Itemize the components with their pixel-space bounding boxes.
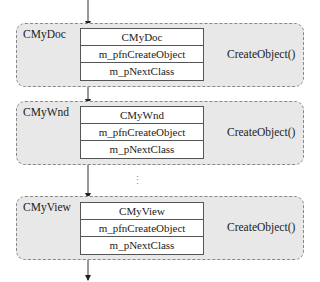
ellipsis: ⋮ (132, 174, 143, 187)
class-box-cmyview: CMyView m_pfnCreateObject m_pNextClass (80, 202, 204, 255)
field-next-class: m_pNextClass (81, 237, 203, 254)
field-create-object: m_pfnCreateObject (81, 46, 203, 63)
field-next-class: m_pNextClass (81, 63, 203, 80)
create-object-target: CreateObject() (227, 221, 295, 233)
group-label: CMyWnd (23, 106, 69, 118)
create-object-target: CreateObject() (227, 126, 295, 138)
class-box-cmywnd: CMyWnd m_pfnCreateObject m_pNextClass (80, 106, 204, 159)
class-name: CMyWnd (81, 107, 203, 124)
group-label: CMyDoc (23, 28, 66, 40)
field-next-class: m_pNextClass (81, 141, 203, 158)
class-name: CMyDoc (81, 29, 203, 46)
group-label: CMyView (23, 201, 71, 213)
class-name: CMyView (81, 203, 203, 220)
field-create-object: m_pfnCreateObject (81, 220, 203, 237)
class-box-cmydoc: CMyDoc m_pfnCreateObject m_pNextClass (80, 28, 204, 81)
create-object-target: CreateObject() (227, 48, 295, 60)
field-create-object: m_pfnCreateObject (81, 124, 203, 141)
